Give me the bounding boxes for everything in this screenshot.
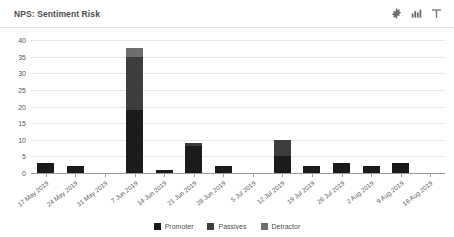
legend-swatch [261,223,268,230]
bar-stack[interactable] [274,140,291,173]
bar-segment-promoter[interactable] [392,163,409,173]
y-axis-tick: 15 [18,120,26,127]
y-axis-tick: 30 [18,70,26,77]
bar-segment-promoter[interactable] [363,166,380,173]
chart-legend: PromoterPassivesDetractor [0,218,454,234]
bar-segment-promoter[interactable] [126,110,143,173]
legend-item-detractor[interactable]: Detractor [261,223,301,230]
bar-segment-promoter[interactable] [215,166,232,173]
bar-group[interactable] [416,40,446,173]
bar-segment-passives[interactable] [126,57,143,110]
legend-item-promoter[interactable]: Promoter [154,223,194,230]
filter-icon[interactable] [431,8,442,19]
bar-stack[interactable] [37,163,54,173]
bar-group[interactable] [208,40,238,173]
bar-group[interactable] [386,40,416,173]
legend-label: Passives [218,223,246,230]
y-axis: 40 35 30 25 20 15 10 5 0 [0,28,30,173]
bar-stack[interactable] [392,163,409,173]
x-axis-label: 17 May 2019 [16,179,49,207]
widget-header: NPS: Sentiment Risk [0,0,454,28]
bar-segment-passives[interactable] [274,140,291,157]
bar-stack[interactable] [67,166,84,173]
bar-group[interactable] [268,40,298,173]
x-label-slot: 16 Aug 2019 [416,177,446,219]
bar-group[interactable] [179,40,209,173]
bar-segment-promoter[interactable] [303,166,320,173]
bar-segment-promoter[interactable] [37,163,54,173]
bar-group[interactable] [90,40,120,173]
bar-group[interactable] [31,40,61,173]
bar-stack[interactable] [126,48,143,173]
bar-group[interactable] [327,40,357,173]
legend-label: Detractor [272,223,301,230]
bar-group[interactable] [120,40,150,173]
legend-label: Promoter [165,223,194,230]
y-axis-tick: 10 [18,136,26,143]
bar-group[interactable] [297,40,327,173]
legend-swatch [207,223,214,230]
y-axis-tick: 5 [22,153,26,160]
bar-stack[interactable] [333,163,350,173]
nps-sentiment-risk-widget: NPS: Sentiment Risk [0,0,454,237]
bar-series-container [31,40,445,173]
bar-segment-promoter[interactable] [333,163,350,173]
bar-stack[interactable] [363,166,380,173]
y-axis-tick: 40 [18,37,26,44]
settings-icon[interactable] [391,8,402,19]
y-axis-tick: 0 [22,170,26,177]
bar-segment-promoter[interactable] [67,166,84,173]
widget-toolbar [391,8,442,19]
legend-item-passives[interactable]: Passives [207,223,246,230]
legend-swatch [154,223,161,230]
bar-stack[interactable] [215,166,232,173]
chart-plot-area: 40 35 30 25 20 15 10 5 0 17 May 201924 M… [0,28,454,237]
y-axis-tick: 25 [18,86,26,93]
page-title: NPS: Sentiment Risk [14,9,100,19]
y-axis-tick: 20 [18,103,26,110]
bar-group[interactable] [149,40,179,173]
bar-group[interactable] [61,40,91,173]
bar-group[interactable] [356,40,386,173]
bar-segment-promoter[interactable] [185,146,202,173]
bar-segment-promoter[interactable] [274,156,291,173]
bar-chart-icon[interactable] [411,8,422,19]
bar-stack[interactable] [303,166,320,173]
bar-segment-detractor[interactable] [126,48,143,56]
x-axis-labels: 17 May 201924 May 201931 May 20197 Jun 2… [31,177,445,219]
y-axis-tick: 35 [18,53,26,60]
bar-stack[interactable] [185,143,202,173]
bar-group[interactable] [238,40,268,173]
